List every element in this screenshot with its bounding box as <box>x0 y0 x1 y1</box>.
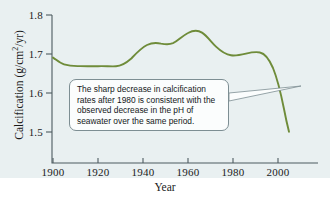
callout-text: The sharp decrease in calcification rate… <box>77 84 222 126</box>
x-tick-label-1960: 1960 <box>168 166 208 178</box>
x-axis-ticks <box>53 158 278 163</box>
y-axis-title-main: Calcification (g/cm <box>13 51 25 140</box>
y-tick-label-1.8: 1.8 <box>22 9 43 21</box>
calcification-chart-figure: 1.8 1.7 1.6 1.5 1900 1920 1940 1960 1980… <box>0 0 330 203</box>
y-axis-ticks <box>46 15 52 132</box>
y-axis-title: Calcification (g/cm2/yr) <box>11 5 25 165</box>
x-tick-label-2000: 2000 <box>258 166 298 178</box>
x-tick-label-1920: 1920 <box>78 166 118 178</box>
x-tick-label-1940: 1940 <box>123 166 163 178</box>
calcification-decline-callout: The sharp decrease in calcification rate… <box>69 79 229 131</box>
x-axis-title: Year <box>0 181 330 193</box>
x-tick-label-1900: 1900 <box>33 166 73 178</box>
y-tick-label-1.5: 1.5 <box>22 126 43 138</box>
x-tick-label-1980: 1980 <box>213 166 253 178</box>
y-axis-title-exponent: 2 <box>11 47 20 51</box>
y-tick-label-1.7: 1.7 <box>22 48 43 60</box>
y-axis-title-tail: /yr) <box>13 30 25 47</box>
y-tick-label-1.6: 1.6 <box>22 87 43 99</box>
